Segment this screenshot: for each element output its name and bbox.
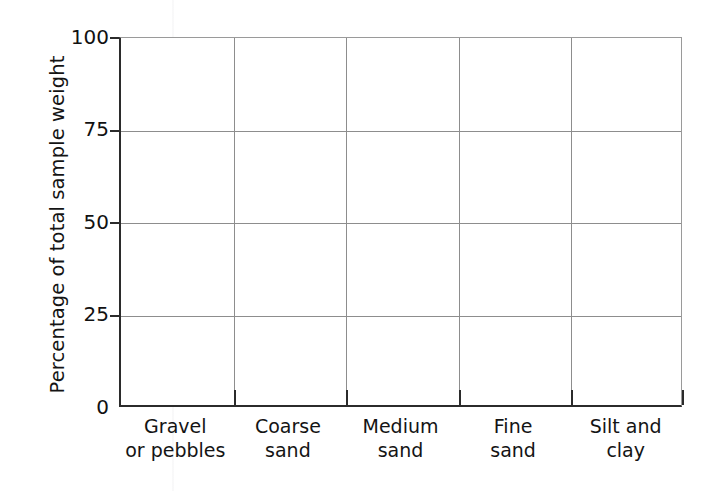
x-category-label-line1: Fine bbox=[494, 415, 533, 437]
x-category-label-medium-sand: Medium sand bbox=[344, 414, 457, 463]
x-category-label-line1: Silt and bbox=[590, 415, 662, 437]
y-tick-label-0: 0 bbox=[49, 397, 109, 417]
y-tick-mark-25 bbox=[110, 315, 119, 317]
gridline-horizontal-25 bbox=[121, 316, 681, 317]
x-tick-mark-3 bbox=[459, 390, 461, 405]
plot-area bbox=[119, 37, 682, 407]
gridline-vertical-3 bbox=[459, 38, 460, 405]
y-tick-label-25: 25 bbox=[49, 304, 109, 324]
gridline-vertical-2 bbox=[346, 38, 347, 405]
x-category-label-line2: sand bbox=[232, 438, 345, 462]
x-category-label-line1: Medium bbox=[362, 415, 438, 437]
gridline-horizontal-75 bbox=[121, 131, 681, 132]
x-category-label-line1: Coarse bbox=[255, 415, 321, 437]
x-tick-mark-1 bbox=[234, 390, 236, 405]
x-category-label-line2: sand bbox=[457, 438, 570, 462]
x-category-label-line2: or pebbles bbox=[119, 438, 232, 462]
x-category-label-gravel-or-pebbles: Gravel or pebbles bbox=[119, 414, 232, 463]
y-tick-mark-75 bbox=[110, 130, 119, 132]
x-category-label-coarse-sand: Coarse sand bbox=[232, 414, 345, 463]
x-tick-mark-5 bbox=[682, 390, 684, 405]
y-tick-label-50: 50 bbox=[49, 212, 109, 232]
gridline-vertical-1 bbox=[234, 38, 235, 405]
y-tick-label-100: 100 bbox=[49, 27, 109, 47]
y-tick-label-75: 75 bbox=[49, 119, 109, 139]
gridline-horizontal-50 bbox=[121, 223, 681, 224]
x-category-label-silt-and-clay: Silt and clay bbox=[569, 414, 682, 463]
gridline-vertical-4 bbox=[571, 38, 572, 405]
x-category-label-line2: clay bbox=[569, 438, 682, 462]
x-category-label-line1: Gravel bbox=[144, 415, 206, 437]
y-tick-mark-50 bbox=[110, 222, 119, 224]
x-category-label-line2: sand bbox=[344, 438, 457, 462]
chart-figure: Percentage of total sample weight 100 75… bbox=[0, 0, 708, 491]
y-tick-mark-100 bbox=[110, 37, 119, 39]
x-tick-mark-4 bbox=[571, 390, 573, 405]
x-category-label-fine-sand: Fine sand bbox=[457, 414, 570, 463]
x-tick-mark-2 bbox=[346, 390, 348, 405]
